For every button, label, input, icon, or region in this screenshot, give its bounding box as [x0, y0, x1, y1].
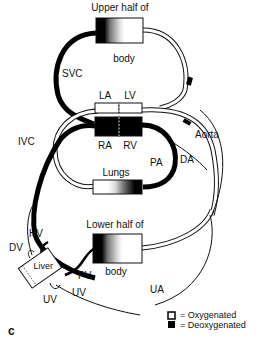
lower-body-artery	[142, 210, 212, 248]
lower-body-label-line2: body	[105, 266, 127, 277]
ra-chamber	[95, 117, 119, 136]
uv-outer-label: UV	[43, 294, 57, 305]
da-label: DA	[180, 154, 194, 165]
la-label: LA	[99, 90, 112, 101]
upper-body-artery	[143, 30, 186, 108]
lungs-label: Lungs	[102, 167, 129, 178]
liver-organ: Liver	[18, 248, 61, 288]
lungs-organ: Lungs	[93, 167, 142, 194]
la-chamber	[95, 103, 119, 113]
ra-label: RA	[98, 140, 112, 151]
lv-chamber	[119, 103, 142, 113]
heart: LA LV RA RV	[95, 90, 142, 151]
upper-body-label-line2: body	[113, 53, 135, 64]
rv-chamber	[119, 117, 142, 136]
ua-label: UA	[150, 284, 164, 295]
pa-vessel	[142, 125, 175, 187]
fetal-circulation-diagram: Upper half of body LA LV RA RV Lungs Low…	[0, 0, 259, 339]
uv-vessel	[56, 285, 140, 315]
pa-label: PA	[150, 157, 163, 168]
dv-label: DV	[9, 242, 23, 253]
pv-label: PV	[78, 270, 92, 281]
uv-inner-label: UV	[72, 287, 86, 298]
lv-label: LV	[124, 90, 136, 101]
lower-body-organ: Lower half of body	[86, 219, 143, 277]
lower-body-label-line1: Lower half of	[86, 219, 143, 230]
upper-body-label-line1: Upper half of	[91, 2, 148, 13]
upper-body-organ: Upper half of body	[91, 2, 148, 64]
liver-label: Liver	[34, 261, 54, 271]
oxygenated-swatch	[168, 312, 175, 319]
deoxygenated-swatch	[168, 321, 175, 328]
panel-label: c	[8, 324, 15, 338]
ivc-label: IVC	[18, 136, 35, 147]
oxygenated-label: = Oxygenated	[180, 310, 236, 320]
rv-label: RV	[123, 140, 137, 151]
svc-label: SVC	[62, 68, 83, 79]
deoxygenated-label: = Deoxygenated	[180, 320, 246, 330]
hv-label: HV	[29, 228, 43, 239]
aorta-label: Aorta	[195, 129, 219, 140]
legend: = Oxygenated = Deoxygenated	[168, 310, 246, 330]
